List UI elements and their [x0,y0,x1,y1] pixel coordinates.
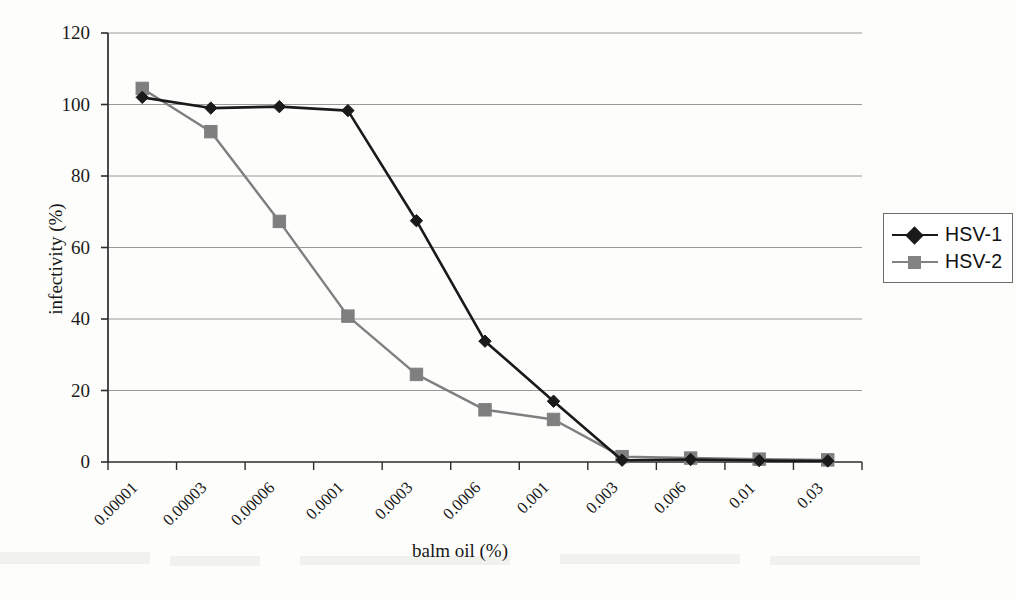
legend-swatch-hsv-1 [892,226,938,244]
legend-swatch-hsv-2 [892,253,938,271]
data-point-hsv-2-5 [479,404,491,416]
legend-item-hsv-2: HSV-2 [892,248,1002,275]
square-marker-icon [908,256,921,269]
data-point-hsv-1-1 [205,102,217,114]
chart-legend: HSV-1 HSV-2 [883,213,1013,283]
y-axis-tick-label: 100 [30,95,90,114]
data-point-hsv-2-1 [205,125,217,137]
chart-figure: 020406080100120 0.000010.000030.000060.0… [0,0,1016,601]
diamond-marker-icon [905,226,923,244]
legend-label-hsv-2: HSV-2 [945,250,1002,273]
data-point-hsv-2-2 [273,215,285,227]
y-axis-tick-label: 120 [30,23,90,42]
legend-label-hsv-1: HSV-1 [945,223,1002,246]
data-point-hsv-2-3 [342,310,354,322]
legend-item-hsv-1: HSV-1 [892,221,1002,248]
data-point-hsv-2-6 [547,413,559,425]
y-axis-tick-label: 20 [30,381,90,400]
data-point-hsv-2-4 [410,368,422,380]
data-point-hsv-1-2 [273,100,285,112]
plot-area [0,0,1016,601]
x-axis-title: balm oil (%) [260,540,660,562]
y-axis-title: infectivity (%) [45,159,67,359]
data-point-hsv-1-4 [410,214,422,226]
y-axis-tick-label: 0 [30,452,90,471]
data-point-hsv-1-3 [342,104,354,116]
